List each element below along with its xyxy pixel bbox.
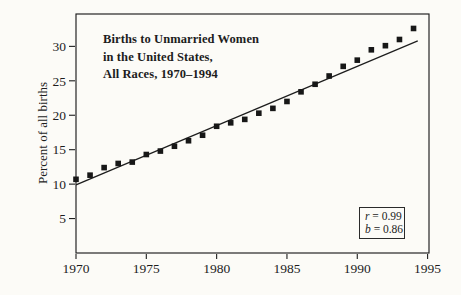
y-tick-label: 30 [53,39,67,54]
data-point [340,64,346,70]
data-point [158,148,164,154]
x-tick-label: 1975 [133,261,160,276]
stat-b-value: = 0.86 [371,223,403,235]
y-tick-label: 10 [53,177,67,192]
stat-r-value: = 0.99 [369,210,401,222]
chart-title-line-3: All Races, 1970–1994 [103,66,259,84]
data-point [214,123,220,129]
data-point [129,159,135,165]
data-point [87,172,93,178]
data-point [115,161,121,167]
x-tick-label: 1980 [203,261,230,276]
data-point [298,89,304,95]
data-point [383,43,389,49]
data-point [73,177,79,183]
data-point [186,138,192,144]
y-tick-label: 15 [53,142,67,157]
x-tick-label: 1990 [344,261,371,276]
y-tick-label: 20 [53,108,67,123]
x-tick-label: 1995 [414,261,441,276]
data-point [228,120,234,126]
stat-b: b = 0.86 [365,223,403,237]
data-point [200,132,206,138]
y-axis-label: Percent of all births [35,82,51,184]
x-tick-label: 1970 [63,261,90,276]
data-point [101,165,107,171]
data-point [270,106,276,112]
x-tick-label: 1985 [273,261,300,276]
data-point [242,117,248,123]
y-tick-label: 25 [53,74,67,89]
data-point [144,152,150,158]
chart-title-line-1: Births to Unmarried Women [103,31,259,49]
data-point [284,99,290,105]
data-point [397,37,403,43]
stat-r: r = 0.99 [365,210,402,224]
data-point [411,26,417,32]
data-point [369,47,375,53]
data-point [326,73,332,79]
scatter-plot-figure: 51015202530197019751980198519901995 Birt… [0,0,461,295]
chart-title: Births to Unmarried Women in the United … [103,31,259,84]
chart-title-line-2: in the United States, [103,49,259,67]
data-point [312,81,318,87]
data-point [354,57,360,63]
y-tick-label: 5 [59,211,66,226]
regression-stats-box: r = 0.99 b = 0.86 [359,207,405,239]
data-point [172,143,178,149]
data-point [256,110,262,116]
